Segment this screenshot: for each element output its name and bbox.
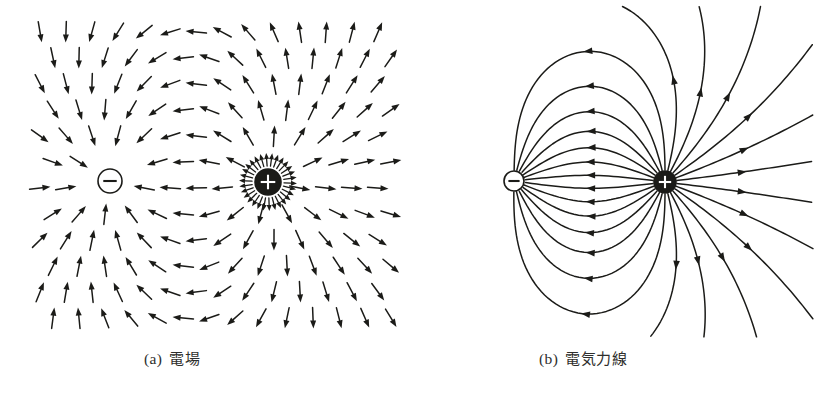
caption-a-text: 電場: [169, 350, 200, 368]
panel-electric-field: [0, 0, 410, 345]
electric-field-vector-diagram: [0, 0, 410, 345]
caption-b-text: 電気力線: [565, 350, 627, 368]
caption-a-tag: (a): [144, 350, 162, 367]
caption-panel-b: (b)電気力線: [378, 344, 788, 374]
figure-root: (a)電場 (b)電気力線: [0, 0, 821, 408]
panel-field-lines: [411, 0, 821, 345]
electric-field-lines-diagram: [411, 0, 821, 345]
caption-b-tag: (b): [539, 350, 558, 367]
caption-panel-a: (a)電場: [0, 344, 377, 374]
caption-row: (a)電場 (b)電気力線: [0, 344, 821, 392]
